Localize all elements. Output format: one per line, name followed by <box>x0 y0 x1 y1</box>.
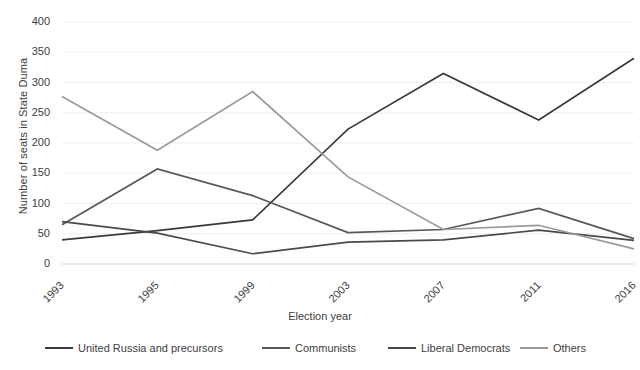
x-axis-title: Election year <box>0 310 640 322</box>
legend-line-icon <box>262 347 290 349</box>
legend-label: Communists <box>295 342 356 354</box>
chart-legend: United Russia and precursorsCommunistsLi… <box>0 340 640 360</box>
legend-line-icon <box>520 347 548 349</box>
line-chart: Number of seats in State Duma 0501001502… <box>0 0 640 370</box>
series-line-2 <box>62 222 634 254</box>
legend-label: Others <box>553 342 586 354</box>
legend-line-icon <box>388 347 416 349</box>
legend-label: United Russia and precursors <box>78 342 223 354</box>
legend-item[interactable]: United Russia and precursors <box>45 340 223 356</box>
legend-line-icon <box>45 347 73 349</box>
legend-item[interactable]: Communists <box>262 340 356 356</box>
legend-label: Liberal Democrats <box>421 342 510 354</box>
series-line-3 <box>62 92 634 249</box>
series-line-0 <box>62 58 634 240</box>
legend-item[interactable]: Liberal Democrats <box>388 340 510 356</box>
legend-item[interactable]: Others <box>520 340 586 356</box>
